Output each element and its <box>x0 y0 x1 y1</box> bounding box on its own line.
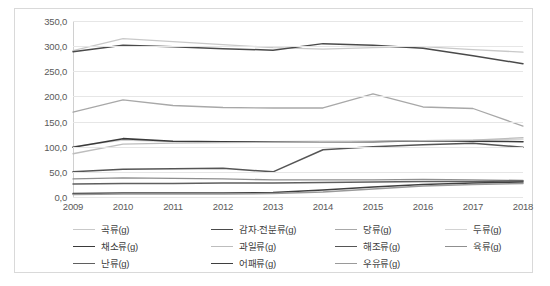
x-axis-tick-label: 2015 <box>363 201 383 212</box>
gridline <box>73 71 523 72</box>
legend-label: 당류(g) <box>363 222 391 236</box>
legend-item[interactable]: 곡류(g) <box>73 221 197 237</box>
x-axis-tick-label: 2013 <box>263 201 283 212</box>
legend-line-swatch <box>211 229 233 230</box>
legend-line-swatch <box>335 229 357 230</box>
plot-area <box>73 21 523 197</box>
legend-line-swatch <box>445 246 467 247</box>
y-axis-tick-label: 50,0 <box>21 166 67 177</box>
x-axis-tick-label: 2011 <box>163 201 183 212</box>
legend-line-swatch <box>73 263 95 264</box>
legend-label: 어패류(g) <box>239 256 276 270</box>
legend-item[interactable]: 두류(g) <box>445 221 550 237</box>
legend-label: 곡류(g) <box>101 222 129 236</box>
y-axis-tick-label: 350,0 <box>21 16 67 27</box>
legend-line-swatch <box>211 246 233 247</box>
gridline <box>73 197 523 198</box>
legend-item[interactable]: 당류(g) <box>335 221 459 237</box>
legend-label: 우유류(g) <box>363 256 400 270</box>
legend-label: 감자·전분류(g) <box>239 222 296 236</box>
legend-item[interactable]: 육류(g) <box>445 238 550 254</box>
x-axis-tick-label: 2012 <box>213 201 233 212</box>
legend-label: 난류(g) <box>101 256 129 270</box>
legend-label: 두류(g) <box>473 222 501 236</box>
legend-line-swatch <box>335 246 357 247</box>
legend-item[interactable]: 과일류(g) <box>211 238 335 254</box>
legend-item[interactable]: 우유류(g) <box>335 255 459 271</box>
x-axis-tick-label: 2016 <box>413 201 433 212</box>
legend-line-swatch <box>73 246 95 247</box>
x-axis: 2009201020112012201320142015201620172018 <box>73 201 523 217</box>
legend-item[interactable]: 해조류(g) <box>335 238 459 254</box>
gridline <box>73 21 523 22</box>
legend-line-swatch <box>445 229 467 230</box>
gridline <box>73 147 523 148</box>
y-axis-tick-label: 100,0 <box>21 141 67 152</box>
y-axis-tick-label: 150,0 <box>21 116 67 127</box>
gridline <box>73 46 523 47</box>
legend-line-swatch <box>211 263 233 264</box>
chart-container: 0,050,0100,0150,0200,0250,0300,0350,0 20… <box>14 8 533 273</box>
series-line-7 <box>73 178 523 181</box>
legend-label: 과일류(g) <box>239 239 276 253</box>
series-lines <box>73 21 523 197</box>
y-axis-tick-label: 250,0 <box>21 66 67 77</box>
x-axis-tick-label: 2018 <box>513 201 533 212</box>
legend-label: 채소류(g) <box>101 239 138 253</box>
legend-column: 두류(g)육류(g) <box>445 221 550 255</box>
x-axis-tick-label: 2014 <box>313 201 333 212</box>
y-axis-tick-label: 300,0 <box>21 41 67 52</box>
gridline <box>73 172 523 173</box>
legend-item[interactable]: 채소류(g) <box>73 238 197 254</box>
x-axis-tick-label: 2017 <box>463 201 483 212</box>
legend-column: 당류(g)해조류(g)우유류(g) <box>335 221 459 272</box>
legend-column: 감자·전분류(g)과일류(g)어패류(g) <box>211 221 335 272</box>
legend-item[interactable]: 난류(g) <box>73 255 197 271</box>
chart-legend: 곡류(g)채소류(g)난류(g)감자·전분류(g)과일류(g)어패류(g)당류(… <box>15 221 534 271</box>
y-axis: 0,050,0100,0150,0200,0250,0300,0350,0 <box>21 9 67 214</box>
legend-item[interactable]: 감자·전분류(g) <box>211 221 335 237</box>
x-axis-tick-label: 2009 <box>63 201 83 212</box>
x-axis-tick-label: 2010 <box>113 201 133 212</box>
y-axis-tick-label: 0,0 <box>21 192 67 203</box>
legend-line-swatch <box>73 229 95 230</box>
gridline <box>73 96 523 97</box>
legend-column: 곡류(g)채소류(g)난류(g) <box>73 221 197 272</box>
plot-wrapper: 0,050,0100,0150,0200,0250,0300,0350,0 20… <box>15 9 534 214</box>
y-axis-tick-label: 200,0 <box>21 91 67 102</box>
gridline <box>73 122 523 123</box>
legend-item[interactable]: 어패류(g) <box>211 255 335 271</box>
legend-label: 육류(g) <box>473 239 501 253</box>
legend-label: 해조류(g) <box>363 239 400 253</box>
legend-line-swatch <box>335 263 357 264</box>
